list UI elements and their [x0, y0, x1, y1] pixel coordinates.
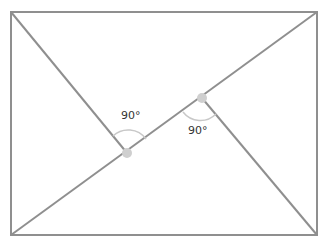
- diagonal-line: [11, 12, 317, 235]
- foot-point-left: [122, 148, 132, 158]
- foot-point-right: [197, 93, 207, 103]
- perpendicular-from-top-left: [11, 12, 127, 153]
- perpendicular-to-bottom-right: [202, 98, 317, 235]
- angle-label-left: 90°: [121, 109, 141, 122]
- angle-label-right: 90°: [188, 124, 208, 137]
- right-angle-arc-left: [113, 130, 146, 139]
- right-angle-arc-right: [183, 112, 216, 121]
- diagram: 90° 90°: [0, 0, 327, 246]
